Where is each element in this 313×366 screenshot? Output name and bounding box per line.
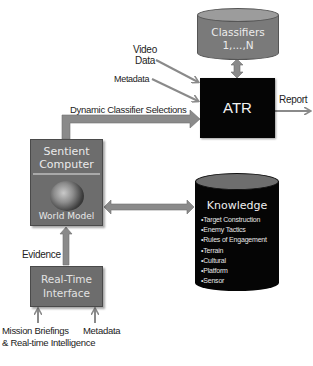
knowledge-node: Knowledge Target Construction Enemy Tact… [195, 173, 279, 291]
video-data-label-line1: Video [133, 44, 157, 55]
classifiers-label: Classifiers 1,...,N [197, 26, 279, 52]
knowledge-item: Platform [201, 266, 267, 276]
classifiers-cylinder-top [197, 8, 279, 22]
knowledge-item: Terrain [201, 246, 267, 256]
classifiers-atr-double-arrow [231, 59, 243, 78]
evidence-label: Evidence [22, 249, 61, 260]
real-time-interface-label: Real-Time Interface [31, 272, 102, 300]
rti-label-line2: Interface [31, 286, 102, 300]
atr-label: ATR [200, 99, 275, 116]
dynamic-classifier-selections-label: Dynamic Classifier Selections [70, 104, 186, 115]
sentient-computer-title: Sentient Computer [31, 145, 102, 171]
knowledge-item: Rules of Engagement [201, 235, 267, 245]
evidence-arrow [60, 227, 72, 265]
video-data-arrow [156, 60, 198, 82]
knowledge-item: Cultural [201, 256, 267, 266]
bottom-metadata-label: Metadata [83, 325, 120, 336]
classifiers-label-line2: 1,...,N [197, 39, 279, 52]
metadata-arrow [152, 79, 198, 101]
mission-briefings-line1: Mission Briefings [2, 325, 95, 337]
video-data-label: Video Data [133, 44, 157, 66]
globe-icon [50, 181, 84, 211]
sentient-divider [33, 173, 100, 175]
world-model-label: World Model [31, 211, 102, 221]
atr-node: ATR [200, 78, 275, 138]
sentient-knowledge-double-arrow [104, 200, 194, 214]
mission-briefings-line2: & Real-time Intelligence [2, 337, 95, 349]
sentient-computer-node: Sentient Computer World Model [30, 139, 103, 226]
knowledge-cylinder-top [195, 173, 279, 190]
classifiers-node: Classifiers 1,...,N [197, 8, 279, 60]
classifiers-label-line1: Classifiers [197, 26, 279, 39]
rti-label-line1: Real-Time [31, 272, 102, 286]
knowledge-item: Sensor [201, 276, 267, 286]
video-data-label-line2: Data [133, 55, 157, 66]
knowledge-list: Target Construction Enemy Tactics Rules … [201, 215, 267, 286]
knowledge-item: Enemy Tactics [201, 225, 267, 235]
real-time-interface-node: Real-Time Interface [30, 266, 103, 307]
knowledge-title: Knowledge [195, 199, 279, 212]
report-label: Report [279, 94, 307, 105]
mission-briefings-label: Mission Briefings & Real-time Intelligen… [2, 325, 95, 349]
sentient-title-line2: Computer [31, 158, 102, 171]
knowledge-item: Target Construction [201, 215, 267, 225]
sentient-title-line1: Sentient [31, 145, 102, 158]
metadata-top-label: Metadata [114, 74, 149, 84]
